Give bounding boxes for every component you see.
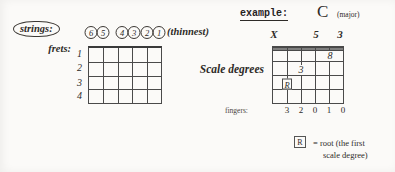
degree-marker-3rd: 3: [298, 65, 305, 75]
chord-quality: (major): [337, 10, 360, 19]
scale-degrees-label: Scale degrees: [164, 63, 264, 75]
string-number-circle-3: 3: [128, 26, 141, 39]
degree-marker-octave: 8: [327, 51, 334, 61]
open-string-mark-3rd: 3: [337, 28, 343, 40]
finger-number-s3: 0: [313, 105, 318, 115]
left-fretboard-grid: [88, 46, 162, 104]
fret-number-4: 4: [62, 90, 82, 101]
root-marker: R: [282, 79, 292, 90]
grid-line: [273, 75, 343, 76]
fret-number-2: 2: [62, 62, 82, 73]
grid-line: [273, 61, 343, 62]
fret-number-3: 3: [62, 77, 82, 88]
legend-text-line1: = root (the first: [313, 138, 365, 148]
string-number-circle-5: 5: [97, 26, 110, 39]
legend-root-symbol-box: R: [294, 136, 306, 148]
fingers-label: fingers:: [225, 106, 248, 115]
finger-number-s5: 3: [285, 105, 290, 115]
open-string-mark-muted: X: [270, 28, 277, 40]
chord-diagram-page: strings: frets: 6 5 4 3 2 1 (thinnest) 1…: [0, 0, 395, 172]
finger-number-s4: 2: [299, 105, 304, 115]
chord-name: C: [317, 2, 328, 22]
finger-number-s2: 1: [327, 105, 332, 115]
strings-label-oval: strings:: [13, 21, 60, 37]
thinnest-label: (thinnest): [167, 26, 209, 37]
grid-line: [89, 76, 161, 77]
open-string-mark-5th: 5: [313, 28, 319, 40]
grid-line: [89, 89, 161, 90]
grid-line: [89, 62, 161, 63]
string-number-circle-1: 1: [153, 26, 166, 39]
finger-number-s1: 0: [341, 105, 346, 115]
example-label: example:: [240, 8, 288, 21]
fret-number-1: 1: [62, 48, 82, 59]
legend-text-line2: scale degree): [323, 150, 368, 160]
